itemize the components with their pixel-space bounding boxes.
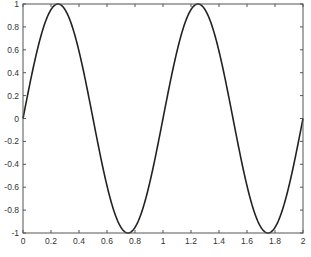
x-tick-label: 0.2: [45, 236, 57, 246]
y-tick-label: -0.6: [4, 182, 19, 192]
x-tick-label: 1.6: [241, 236, 253, 246]
y-tick-label: 0.4: [7, 68, 19, 78]
x-tick-label: 0: [21, 236, 26, 246]
x-axis-tick-labels: 00.20.40.60.811.21.41.61.82: [21, 236, 306, 246]
y-axis-tick-labels: -1-0.8-0.6-0.4-0.200.20.40.60.81: [4, 0, 19, 238]
x-tick-label: 0.8: [129, 236, 141, 246]
x-tick-label: 1.4: [213, 236, 225, 246]
y-tick-label: -1: [11, 228, 19, 238]
x-tick-label: 0.6: [101, 236, 113, 246]
y-tick-label: 0.2: [7, 91, 19, 101]
y-tick-label: -0.4: [4, 159, 19, 169]
x-tick-label: 1.2: [185, 236, 197, 246]
y-tick-label: -0.8: [4, 205, 19, 215]
sine-line-chart: 00.20.40.60.811.21.41.61.82 -1-0.8-0.6-0…: [0, 0, 311, 257]
y-tick-label: -0.2: [4, 136, 19, 146]
y-tick-label: 0.8: [7, 22, 19, 32]
x-tick-label: 1.8: [269, 236, 281, 246]
y-tick-label: 0.6: [7, 45, 19, 55]
y-tick-label: 0: [14, 114, 19, 124]
x-tick-label: 2: [301, 236, 306, 246]
y-tick-label: 1: [14, 0, 19, 9]
x-tick-label: 0.4: [73, 236, 85, 246]
x-tick-label: 1: [161, 236, 166, 246]
